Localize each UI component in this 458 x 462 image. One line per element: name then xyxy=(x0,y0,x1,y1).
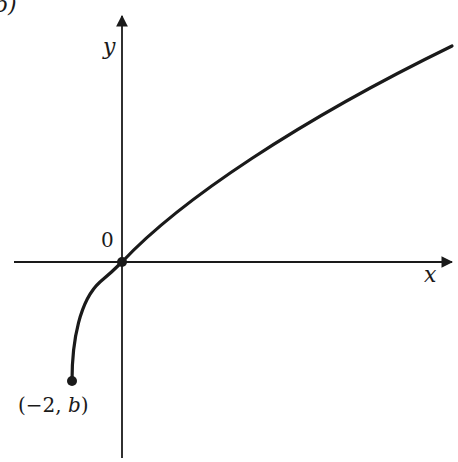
origin-point xyxy=(117,257,127,267)
endpoint-label: (−2, b) xyxy=(18,393,89,417)
y-axis-label: y xyxy=(103,34,115,59)
function-curve xyxy=(72,46,452,381)
part-label: b) xyxy=(0,0,17,17)
origin-label: 0 xyxy=(101,228,114,252)
endpoint-point xyxy=(67,376,77,386)
endpoint-label-text: (−2, b) xyxy=(18,393,89,417)
endpoint-b-variable: b xyxy=(68,393,81,417)
x-axis-label: x xyxy=(424,262,436,287)
